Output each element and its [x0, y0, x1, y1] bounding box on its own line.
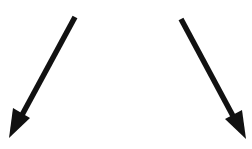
arrows-svg [0, 0, 252, 149]
right-arrow-icon [181, 19, 246, 139]
diagram-canvas [0, 0, 252, 149]
left-arrow-icon [9, 17, 75, 138]
